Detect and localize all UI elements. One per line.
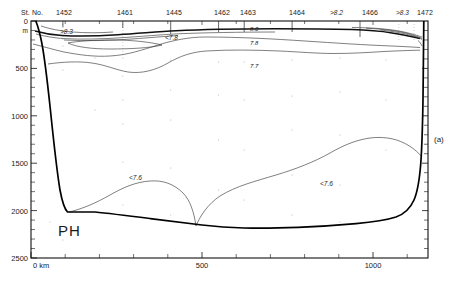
depth-tick-label-500: 500 [15, 64, 28, 73]
contour-right-edge-bundle [418, 41, 422, 47]
annotation-gt-8-3-top: >8.3 [396, 9, 409, 16]
distance-tick-label-1000: 1000 [365, 261, 382, 270]
seafloor-profile [36, 21, 424, 228]
depth-tick-label-0: 0 [24, 17, 28, 26]
depth-unit-label: m [23, 27, 28, 34]
depth-major-ticks-left [31, 21, 37, 258]
distance-tick-label-0: 0 km [33, 261, 49, 270]
contour-value-7-7: 7.7 [250, 63, 259, 69]
station-label-1463: 1463 [240, 9, 256, 16]
depth-tick-label-2000: 2000 [11, 207, 28, 216]
contour-ph-7-6-deep-right [196, 137, 422, 226]
contour-value-8-0: 8.0 [250, 26, 259, 32]
ph-section-svg: St. No. 1452 1461 1445 1462 1463 1464 14… [0, 0, 460, 286]
parameter-label: PH [58, 222, 81, 239]
contour-ph-7-7-mid [48, 50, 420, 72]
ph-section-figure: St. No. 1452 1461 1445 1462 1463 1464 14… [0, 0, 460, 286]
annotation-lt-7-6-left: <7.6 [129, 174, 142, 181]
station-header-row: St. No. 1452 1461 1445 1462 1463 1464 14… [21, 9, 433, 16]
panel-label: (a) [434, 135, 444, 144]
distance-axis-top [65, 21, 407, 25]
station-label-1462: 1462 [214, 9, 230, 16]
contour-ph-8-3-left [41, 26, 113, 33]
depth-minor-ticks-left [31, 30, 35, 248]
contour-value-7-8: 7.8 [250, 40, 259, 46]
station-label-1472: 1472 [417, 9, 433, 16]
depth-tick-label-1000: 1000 [11, 112, 28, 121]
station-label-1464: 1464 [289, 9, 305, 16]
distance-tick-label-500: 500 [196, 261, 209, 270]
ph-contours [33, 26, 422, 226]
contour-ph-7-8-upper [33, 37, 420, 56]
contour-ph-7-6-deep-left [69, 181, 196, 226]
station-header-title: St. No. [21, 9, 43, 16]
annotation-lt-7-8: <7.8 [165, 34, 178, 41]
contour-labels: >8.3 <7.8 8.0 7.8 7.7 <7.6 <7.6 [60, 26, 333, 188]
depth-tick-label-1500: 1500 [11, 159, 28, 168]
annotation-gt-8-3-left: >8.3 [60, 28, 73, 35]
station-label-1445: 1445 [166, 9, 182, 16]
annotation-gt-8-2-top: >8.2 [330, 9, 343, 16]
station-label-1466: 1466 [362, 9, 378, 16]
station-label-1461: 1461 [117, 9, 133, 16]
station-label-1452: 1452 [56, 9, 72, 16]
observation-points [49, 45, 386, 240]
contour-ph-7-8-lens-left [68, 40, 162, 49]
annotation-lt-7-6-right: <7.6 [320, 180, 333, 187]
distance-axis-bottom: 0 km 500 1000 [31, 252, 407, 270]
depth-tick-label-2500: 2500 [11, 254, 28, 263]
depth-axis-left: 0 m 500 1000 1500 2000 2500 [11, 17, 37, 263]
